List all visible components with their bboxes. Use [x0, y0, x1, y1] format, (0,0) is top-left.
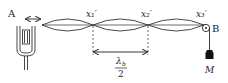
loop-2-lower: [93, 25, 148, 31]
diagram-svg: A x₁′ x₂′ x₃′ λ b 2 B: [0, 0, 228, 83]
loop-3-lower: [148, 25, 204, 31]
label-node-2: x₂′: [141, 9, 152, 19]
label-node-3: x₃′: [196, 9, 207, 19]
lambda-subscript: b: [122, 60, 126, 67]
loop-2-upper: [93, 19, 148, 25]
pulley-icon: [202, 24, 209, 31]
label-end-a: A: [7, 8, 16, 19]
standing-wave-diagram: A x₁′ x₂′ x₃′ λ b 2 B: [0, 0, 228, 83]
loop-1-upper: [42, 19, 93, 25]
label-end-b: B: [212, 23, 219, 34]
denominator: 2: [118, 69, 124, 79]
lambda-symbol: λ: [115, 56, 122, 66]
loop-1-lower: [42, 25, 93, 31]
label-mass: M: [204, 65, 215, 75]
label-node-1: x₁′: [86, 9, 97, 19]
mass-weight-icon: [206, 50, 214, 59]
half-wavelength-label: λ b 2: [115, 56, 127, 79]
loop-3-upper: [148, 19, 204, 25]
tuning-fork-icon: [17, 26, 35, 70]
